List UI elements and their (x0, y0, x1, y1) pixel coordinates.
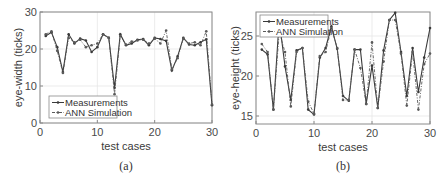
data-marker (90, 44, 93, 47)
x-tick-label: 10 (91, 126, 103, 138)
y-axis-label: eye-height (ticks) (229, 26, 241, 110)
data-marker (165, 29, 168, 32)
data-marker (44, 33, 47, 36)
data-marker (113, 93, 116, 96)
data-marker (307, 100, 310, 103)
data-marker (417, 91, 420, 94)
data-marker (353, 48, 356, 51)
legend-ann-label: ANN Simulation (276, 26, 343, 37)
data-marker (96, 46, 99, 49)
x-tick-label: 10 (308, 127, 320, 139)
data-marker (423, 63, 426, 66)
legend-marker (57, 111, 60, 114)
data-marker (205, 30, 208, 33)
x-tick-label: 30 (206, 126, 218, 138)
x-tick-label: 30 (424, 127, 436, 139)
data-marker (176, 57, 179, 60)
legend-marker (268, 30, 271, 33)
data-marker (394, 19, 397, 22)
data-marker (96, 42, 99, 45)
y-tick-label: 25 (241, 30, 253, 42)
data-marker (102, 33, 105, 36)
legend-marker (268, 20, 271, 23)
data-marker (359, 67, 362, 70)
data-marker (295, 51, 298, 54)
data-marker (211, 103, 214, 106)
data-marker (382, 49, 385, 52)
data-marker (159, 42, 162, 45)
data-marker (313, 112, 316, 115)
data-marker (348, 99, 351, 102)
legend: MeasurementsANN Simulation (49, 96, 132, 118)
x-tick-label: 0 (253, 127, 259, 139)
data-marker (382, 60, 385, 63)
data-marker (62, 72, 65, 75)
data-marker (136, 39, 139, 42)
chart-panel-a: 01020300102030test caseseye-width (ticks… (12, 6, 218, 173)
ann-simulation-line (46, 31, 212, 105)
data-marker (342, 99, 345, 102)
data-marker (153, 37, 156, 40)
data-marker (159, 38, 162, 41)
data-marker (119, 35, 122, 38)
data-marker (284, 65, 287, 68)
data-marker (307, 108, 310, 111)
data-marker (406, 104, 409, 107)
y-axis-label: eye-width (ticks) (12, 28, 24, 107)
panel-caption: (a) (119, 159, 132, 173)
data-marker (261, 43, 264, 46)
data-marker (188, 42, 191, 45)
data-marker (388, 19, 391, 22)
data-marker (50, 30, 53, 33)
data-marker (130, 40, 133, 43)
data-marker (182, 37, 185, 40)
figure: 01020300102030test caseseye-width (ticks… (0, 0, 441, 176)
data-marker (411, 51, 414, 54)
legend: MeasurementsANN Simulation (260, 15, 343, 37)
x-tick-label: 20 (366, 127, 378, 139)
x-axis-label: test cases (101, 140, 151, 152)
legend-marker (57, 101, 60, 104)
data-marker (400, 52, 403, 55)
data-marker (261, 48, 264, 51)
data-marker (199, 44, 202, 47)
data-marker (171, 68, 174, 71)
data-marker (319, 55, 322, 58)
data-marker (417, 108, 420, 111)
y-tick-label: 0 (31, 117, 37, 129)
data-marker (365, 103, 368, 106)
data-marker (73, 41, 76, 44)
data-marker (394, 12, 397, 15)
data-marker (359, 48, 362, 51)
data-marker (336, 47, 339, 50)
panel-caption: (b) (336, 159, 350, 173)
data-marker (411, 47, 414, 50)
data-marker (90, 51, 93, 54)
data-marker (377, 107, 380, 110)
data-marker (165, 40, 168, 43)
data-marker (125, 43, 128, 46)
y-tick-label: 20 (25, 43, 37, 55)
data-marker (371, 41, 374, 44)
data-marker (272, 108, 275, 111)
data-marker (67, 37, 70, 40)
data-marker (56, 50, 59, 53)
chart-panel-b: 0102030152025test caseseye-height (ticks… (229, 12, 436, 174)
data-marker (85, 46, 88, 49)
data-marker (423, 56, 426, 59)
data-marker (108, 37, 111, 40)
data-marker (371, 64, 374, 67)
data-marker (79, 38, 82, 41)
data-marker (290, 105, 293, 108)
data-marker (67, 33, 70, 36)
data-marker (301, 47, 304, 50)
x-axis-label: test cases (318, 141, 368, 153)
data-marker (194, 41, 197, 44)
y-tick-label: 20 (241, 70, 253, 82)
y-tick-label: 10 (25, 80, 37, 92)
y-tick-label: 30 (25, 6, 37, 18)
x-tick-label: 20 (149, 126, 161, 138)
data-marker (142, 38, 145, 41)
data-marker (284, 51, 287, 54)
data-marker (85, 39, 88, 42)
